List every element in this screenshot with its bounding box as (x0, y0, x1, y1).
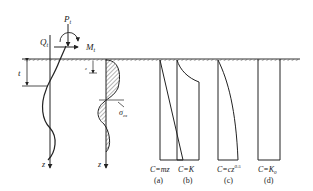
svg-text:(d): (d) (264, 176, 274, 185)
dimension-t-label: t (18, 68, 21, 78)
soil-stress-distribution: z σzx z (84, 59, 128, 169)
svg-text:C=K: C=K (178, 165, 195, 174)
stress-label: σzx (119, 108, 128, 118)
svg-text:C=mz: C=mz (150, 165, 171, 174)
distribution-b: C=K (b) (177, 60, 199, 185)
depth-small-z-label: z (84, 66, 87, 71)
pile-deflection: t z (18, 35, 66, 169)
moment-arrow (60, 32, 78, 42)
svg-text:C=cz0.5: C=cz0.5 (217, 164, 241, 174)
pile-lateral-load-diagram: t z Pt Qt Mt z σzx z C=mz (a) C=K (b) (0, 0, 313, 191)
shear-force-label: Qt (40, 37, 49, 48)
svg-text:C=K0: C=K0 (258, 165, 277, 175)
axial-force-label: Pt (63, 14, 72, 25)
deflection-curve (43, 46, 66, 160)
svg-text:(a): (a) (154, 176, 163, 185)
depth-z-label: z (41, 160, 46, 169)
distribution-c: C=cz0.5 (c) (217, 60, 241, 185)
moment-label: Mt (85, 42, 96, 53)
svg-text:(b): (b) (183, 176, 193, 185)
applied-loads: Pt Qt Mt (40, 14, 96, 53)
stress-depth-z-label: z (97, 160, 102, 169)
svg-text:(c): (c) (224, 176, 233, 185)
distribution-d: C=K0 (d) (258, 59, 280, 185)
